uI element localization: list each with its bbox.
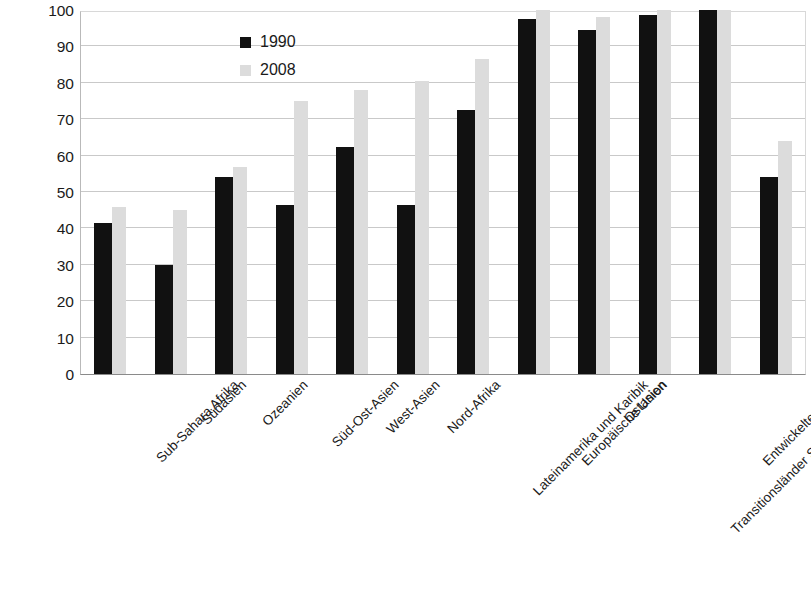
bar-2008 bbox=[415, 81, 429, 374]
bar-1990 bbox=[639, 15, 657, 374]
bar-2008 bbox=[657, 10, 671, 374]
y-axis-tick-label: 80 bbox=[30, 76, 74, 92]
bar-1990 bbox=[94, 223, 112, 374]
y-axis-title-container: Anteil fachkundiger Entbindungen [%] bbox=[2, 0, 32, 380]
y-axis-title: Anteil fachkundiger Entbindungen [%] bbox=[2, 0, 30, 28]
y-axis-tick-labels: 1009080706050403020100 bbox=[30, 0, 78, 390]
x-axis-tick-label: Nord-Afrika bbox=[445, 378, 504, 437]
y-axis-tick-label: 50 bbox=[30, 185, 74, 201]
bar-2008 bbox=[778, 141, 792, 374]
bar-1990 bbox=[276, 205, 294, 374]
legend-item-2008: 2008 bbox=[240, 56, 400, 84]
bar-group bbox=[626, 12, 687, 374]
y-axis-tick-label: 100 bbox=[30, 3, 74, 19]
legend-label: 1990 bbox=[260, 34, 296, 50]
bar-2008 bbox=[475, 59, 489, 374]
bar-2008 bbox=[294, 101, 308, 374]
x-axis-tick-label: Süd-Ost-Asien bbox=[329, 378, 402, 451]
bar-1990 bbox=[215, 177, 233, 374]
y-axis-tick-label: 90 bbox=[30, 40, 74, 56]
y-axis-tick-label: 10 bbox=[30, 331, 74, 347]
y-axis-tick-label: 70 bbox=[30, 112, 74, 128]
plot-area bbox=[80, 11, 806, 375]
legend: 19902008 bbox=[240, 28, 400, 84]
y-axis-tick-label: 0 bbox=[30, 367, 74, 383]
bar-group bbox=[505, 12, 566, 374]
bar-2008 bbox=[717, 10, 731, 374]
x-axis-tick-labels: Sub-Sahara AfrikaSüdasienOzeanienSüd-Ost… bbox=[80, 378, 806, 593]
legend-swatch-icon bbox=[240, 65, 251, 76]
y-axis-tick-label: 20 bbox=[30, 294, 74, 310]
bar-group bbox=[81, 12, 142, 374]
bar-group bbox=[142, 12, 203, 374]
legend-item-1990: 1990 bbox=[240, 28, 400, 56]
bar-1990 bbox=[336, 147, 354, 375]
bar-2008 bbox=[536, 10, 550, 374]
bar-2008 bbox=[233, 167, 247, 374]
x-axis-tick-label: Ozeanien bbox=[260, 378, 311, 429]
bar-chart: Anteil fachkundiger Entbindungen [%] 100… bbox=[0, 0, 811, 595]
bar-1990 bbox=[760, 177, 778, 374]
bar-group bbox=[565, 12, 626, 374]
bar-2008 bbox=[173, 210, 187, 374]
legend-label: 2008 bbox=[260, 62, 296, 78]
bar-2008 bbox=[596, 17, 610, 374]
bar-1990 bbox=[397, 205, 415, 374]
bar-1990 bbox=[457, 110, 475, 374]
bars-container bbox=[81, 12, 805, 374]
bar-1990 bbox=[578, 30, 596, 374]
bar-2008 bbox=[112, 207, 126, 374]
y-axis-tick-label: 60 bbox=[30, 149, 74, 165]
bar-2008 bbox=[354, 90, 368, 374]
bar-1990 bbox=[518, 19, 536, 374]
bar-group bbox=[686, 12, 747, 374]
x-axis-tick-label: Lateinamerika und Karibik bbox=[531, 378, 652, 499]
y-axis-tick-label: 30 bbox=[30, 258, 74, 274]
bar-1990 bbox=[699, 10, 717, 374]
bar-group bbox=[444, 12, 505, 374]
legend-swatch-icon bbox=[240, 37, 251, 48]
y-axis-tick-label: 40 bbox=[30, 222, 74, 238]
bar-group bbox=[747, 12, 808, 374]
bar-1990 bbox=[155, 265, 173, 374]
